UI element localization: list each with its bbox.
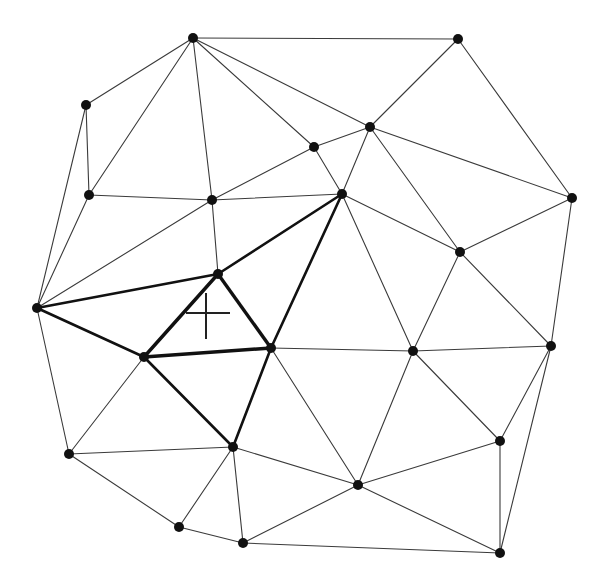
edge-15-17 (144, 357, 233, 447)
edges-layer (37, 38, 572, 553)
node-11 (32, 303, 42, 313)
node-15 (139, 352, 149, 362)
node-5 (84, 190, 94, 200)
edge-5-11 (37, 195, 89, 308)
edge-9-12 (460, 252, 551, 346)
edge-8-6 (212, 194, 342, 200)
node-21 (238, 538, 248, 548)
nodes-layer (32, 33, 577, 558)
edge-1-3 (370, 39, 458, 127)
node-4 (309, 142, 319, 152)
node-8 (207, 195, 217, 205)
edge-11-18 (37, 308, 69, 454)
edge-12-16 (500, 346, 551, 441)
edge-6-14 (342, 194, 413, 351)
node-7 (567, 193, 577, 203)
node-16 (495, 436, 505, 446)
edge-0-4 (193, 38, 314, 147)
node-0 (188, 33, 198, 43)
edge-3-7 (370, 127, 572, 198)
node-12 (546, 341, 556, 351)
edge-0-2 (86, 38, 193, 105)
edge-20-21 (179, 527, 243, 543)
edge-14-16 (413, 351, 500, 441)
node-17 (228, 442, 238, 452)
edge-12-22 (500, 346, 551, 553)
edge-1-7 (458, 39, 572, 198)
edge-3-4 (314, 127, 370, 147)
node-3 (365, 122, 375, 132)
edge-7-9 (460, 198, 572, 252)
edge-14-19 (358, 351, 413, 485)
node-10 (213, 269, 223, 279)
edge-17-21 (233, 447, 243, 543)
edge-13-17 (233, 348, 271, 447)
edge-17-20 (179, 447, 233, 527)
edge-10-13 (218, 274, 271, 348)
node-2 (81, 100, 91, 110)
edge-17-18 (69, 447, 233, 454)
node-13 (266, 343, 276, 353)
edge-15-13 (144, 348, 271, 357)
edge-8-10 (212, 200, 218, 274)
edge-16-19 (358, 441, 500, 485)
edge-9-14 (413, 252, 460, 351)
node-19 (353, 480, 363, 490)
edge-2-11 (37, 105, 86, 308)
edge-15-18 (69, 357, 144, 454)
edge-19-22 (358, 485, 500, 553)
edge-18-20 (69, 454, 179, 527)
edge-0-3 (193, 38, 370, 127)
triangulation-diagram (0, 0, 606, 583)
node-6 (337, 189, 347, 199)
node-20 (174, 522, 184, 532)
node-9 (455, 247, 465, 257)
edge-21-22 (243, 543, 500, 553)
edge-6-9 (342, 194, 460, 252)
node-1 (453, 34, 463, 44)
node-14 (408, 346, 418, 356)
edge-13-14 (271, 348, 413, 351)
edge-0-8 (193, 38, 212, 200)
node-18 (64, 449, 74, 459)
edge-4-8 (212, 147, 314, 200)
edge-0-1 (193, 38, 458, 39)
edge-14-12 (413, 346, 551, 351)
edge-7-12 (551, 198, 572, 346)
edge-0-5 (89, 38, 193, 195)
query-point-cross-icon (186, 293, 230, 339)
edge-3-9 (370, 127, 460, 252)
edge-11-15 (37, 308, 144, 357)
edge-2-5 (86, 105, 89, 195)
node-22 (495, 548, 505, 558)
edge-5-8 (89, 195, 212, 200)
edge-4-6 (314, 147, 342, 194)
edge-17-19 (233, 447, 358, 485)
edge-3-6 (342, 127, 370, 194)
edge-13-19 (271, 348, 358, 485)
edge-21-19 (243, 485, 358, 543)
